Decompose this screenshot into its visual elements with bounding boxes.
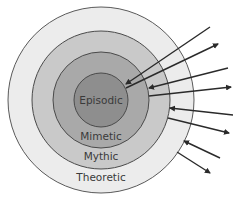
label-theoretic: Theoretic bbox=[75, 171, 126, 183]
label-mimetic: Mimetic bbox=[80, 130, 122, 142]
diagram-stage: Theoretic Mythic Mimetic Episodic bbox=[0, 0, 244, 198]
label-mythic: Mythic bbox=[84, 150, 119, 162]
arrow-outward-icon bbox=[177, 152, 210, 173]
label-episodic: Episodic bbox=[79, 94, 123, 106]
arrow-inward-icon bbox=[184, 141, 220, 158]
concentric-culture-diagram: Theoretic Mythic Mimetic Episodic bbox=[0, 0, 244, 198]
